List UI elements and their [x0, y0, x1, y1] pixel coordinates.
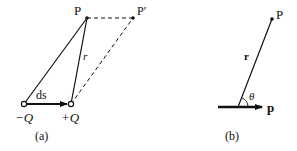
label-P: P [74, 4, 81, 17]
positive-charge [68, 101, 73, 106]
angle-arc [242, 98, 248, 107]
caption-b: (b) [225, 130, 239, 142]
label-ds: ds [36, 89, 47, 101]
negative-charge [21, 101, 26, 106]
label-negQ: −Q [15, 111, 33, 124]
label-p: p [267, 101, 274, 114]
vector-r-line-b [238, 19, 272, 107]
point-P-dot [85, 16, 89, 20]
dashed-posQ-to-Pprime [71, 18, 133, 104]
point-P-dot-b [270, 17, 274, 21]
diagram-b [218, 17, 274, 107]
line-negQ-to-P [24, 18, 87, 104]
label-theta: θ [249, 91, 254, 102]
label-posQ: +Q [61, 111, 79, 124]
point-Pprime-dot [131, 16, 135, 20]
label-P-b: P [276, 8, 283, 21]
label-r-a: r [83, 51, 87, 62]
label-r-b: r [244, 51, 249, 62]
label-P-prime: P′ [137, 5, 146, 17]
caption-a: (a) [35, 130, 48, 142]
